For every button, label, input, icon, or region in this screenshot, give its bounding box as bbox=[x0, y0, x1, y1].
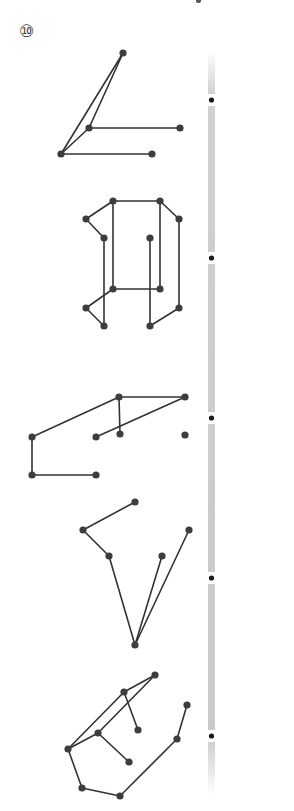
vertex-dot bbox=[146, 234, 153, 241]
vertex-dot bbox=[78, 784, 85, 791]
connector-line bbox=[86, 219, 104, 238]
vertex-dot bbox=[175, 304, 182, 311]
vertex-dot bbox=[181, 393, 188, 400]
divider-dot bbox=[209, 97, 214, 102]
figure-2 bbox=[82, 197, 182, 329]
vertex-dot bbox=[28, 433, 35, 440]
vertex-dot bbox=[146, 322, 153, 329]
divider-dot bbox=[209, 255, 214, 260]
vertex-dot bbox=[94, 729, 101, 736]
vertex-dot bbox=[92, 433, 99, 440]
vertex-dot bbox=[181, 431, 188, 438]
vertex-dot bbox=[109, 285, 116, 292]
dot-figures bbox=[28, 49, 192, 799]
connector-line bbox=[150, 308, 179, 326]
vertex-dot bbox=[176, 124, 183, 131]
connector-line bbox=[177, 705, 187, 739]
vertex-dot bbox=[92, 471, 99, 478]
figure-1 bbox=[57, 49, 183, 157]
vertex-dot bbox=[28, 471, 35, 478]
divider-dot bbox=[209, 415, 214, 420]
connector-line bbox=[124, 692, 138, 730]
vertex-dot bbox=[183, 701, 190, 708]
vertex-dot bbox=[82, 215, 89, 222]
vertex-dot bbox=[100, 234, 107, 241]
divider-dot bbox=[209, 733, 214, 738]
vertex-dot bbox=[156, 197, 163, 204]
connector-line bbox=[82, 788, 120, 796]
connector-line bbox=[124, 675, 155, 692]
vertex-dot bbox=[82, 304, 89, 311]
connector-line bbox=[86, 308, 104, 326]
vertex-dot bbox=[119, 49, 126, 56]
vertex-dot bbox=[105, 552, 112, 559]
divider-bar bbox=[207, 50, 216, 795]
connector-line bbox=[98, 675, 155, 733]
connector-line bbox=[32, 397, 119, 437]
connector-line bbox=[83, 502, 135, 530]
connector-line bbox=[109, 556, 135, 645]
vertex-dot bbox=[156, 285, 163, 292]
connector-line bbox=[68, 692, 124, 749]
connector-line bbox=[86, 289, 113, 308]
vertex-dot bbox=[57, 150, 64, 157]
connector-line bbox=[89, 53, 123, 128]
vertex-dot bbox=[64, 745, 71, 752]
vertex-dot bbox=[115, 393, 122, 400]
vertex-dot bbox=[125, 758, 132, 765]
vertex-dot bbox=[175, 215, 182, 222]
connector-line bbox=[83, 530, 109, 556]
connector-line bbox=[120, 739, 177, 796]
vertex-dot bbox=[134, 726, 141, 733]
vertex-dot bbox=[185, 526, 192, 533]
vertex-dot bbox=[116, 430, 123, 437]
vertex-dot bbox=[151, 671, 158, 678]
vertex-dot bbox=[79, 526, 86, 533]
connector-line bbox=[135, 530, 189, 645]
connector-line bbox=[160, 201, 179, 219]
vertex-dot bbox=[85, 124, 92, 131]
vertex-dot bbox=[131, 498, 138, 505]
vertex-dot bbox=[148, 150, 155, 157]
vertex-dot bbox=[173, 735, 180, 742]
vertex-dot bbox=[131, 641, 138, 648]
figure-5 bbox=[64, 671, 190, 799]
figure-3 bbox=[28, 393, 188, 478]
connector-line bbox=[96, 397, 185, 437]
connector-line bbox=[135, 556, 162, 645]
vertex-dot bbox=[109, 197, 116, 204]
connector-line bbox=[119, 397, 120, 434]
vertex-dot bbox=[116, 792, 123, 799]
vertex-dot bbox=[158, 552, 165, 559]
connector-line bbox=[98, 733, 129, 762]
connector-line bbox=[68, 749, 82, 788]
connector-line bbox=[68, 733, 98, 749]
vertex-dot bbox=[100, 322, 107, 329]
divider-dot bbox=[209, 575, 214, 580]
connector-line bbox=[86, 201, 113, 219]
figure-4 bbox=[79, 498, 192, 648]
connector-line bbox=[61, 53, 123, 154]
vertex-dot bbox=[120, 688, 127, 695]
figures-canvas bbox=[0, 0, 294, 811]
